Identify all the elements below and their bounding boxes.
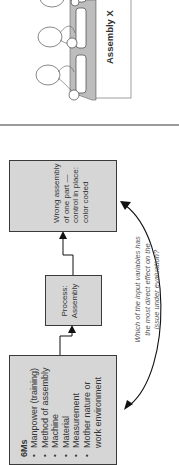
list-item: Method of assembly <box>40 367 51 457</box>
process-text: Process: Assembly <box>60 282 79 320</box>
process-box: Process: Assembly <box>45 275 102 326</box>
question-text: Which of the input variables has the mos… <box>133 227 162 352</box>
list-item: Manpower (training) <box>29 367 40 457</box>
list-item: work environment <box>93 367 104 457</box>
list-item: Measurement <box>71 367 82 457</box>
inputs-list: Manpower (training) Method of assembly M… <box>29 367 103 457</box>
list-item: Machine <box>50 367 61 457</box>
question-line: Which of the input variables has <box>133 227 143 352</box>
output-text: Wrong assembly of one part — control in … <box>52 164 90 223</box>
process-line: Process: <box>60 282 70 320</box>
output-line: color coded <box>81 164 91 223</box>
inputs-title: 6Ms <box>19 367 29 457</box>
list-item: Material <box>61 367 72 457</box>
arrow-head-icon <box>124 400 133 410</box>
output-line: of one part — <box>62 164 72 223</box>
list-item: Mother nature or <box>82 367 93 457</box>
output-line: Wrong assembly <box>52 164 62 223</box>
process-line: Assembly <box>70 282 80 320</box>
question-line: issue under evaluation? <box>152 227 162 352</box>
question-line: the most direct effect on the <box>143 227 153 352</box>
arrow-head-icon <box>68 325 76 333</box>
output-line: control in place: <box>71 164 81 223</box>
output-box: Wrong assembly of one part — control in … <box>9 160 117 232</box>
arrow-head-icon <box>59 231 67 239</box>
inputs-content: 6Ms Manpower (training) Method of assemb… <box>19 367 103 457</box>
inputs-box: 6Ms Manpower (training) Method of assemb… <box>9 355 117 465</box>
